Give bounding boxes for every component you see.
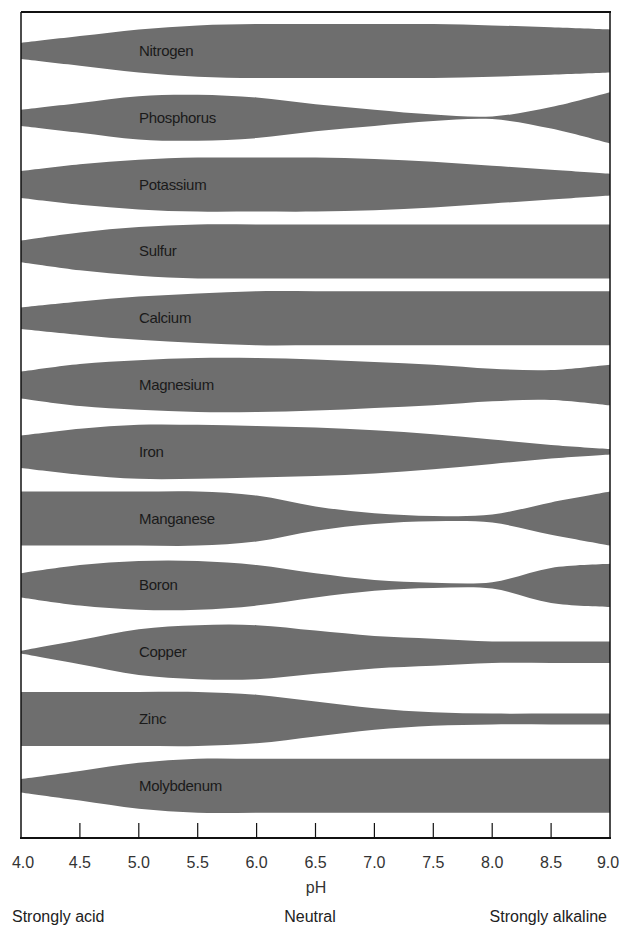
band-molybdenum: Molybdenum — [21, 758, 610, 813]
x-tick-label: 5.5 — [187, 854, 209, 871]
band-sulfur: Sulfur — [21, 224, 610, 278]
band-copper: Copper — [21, 625, 610, 680]
band-boron: Boron — [21, 561, 610, 611]
band-shape-potassium — [21, 157, 610, 211]
band-shape-manganese — [21, 491, 610, 546]
x-tick-label: 7.5 — [422, 854, 444, 871]
nutrient-availability-chart: NitrogenPhosphorusPotassiumSulfurCalcium… — [0, 0, 623, 951]
scale-label-alkaline: Strongly alkaline — [490, 908, 608, 925]
scale-label-neutral: Neutral — [284, 908, 336, 925]
band-iron: Iron — [21, 424, 610, 479]
band-shape-iron — [21, 424, 610, 479]
x-axis-tick-labels: 4.04.55.05.56.06.57.07.58.08.59.0 — [12, 854, 619, 871]
band-shape-magnesium — [21, 358, 610, 412]
x-tick-label: 4.5 — [69, 854, 91, 871]
band-label-magnesium: Magnesium — [139, 376, 214, 393]
band-shape-phosphorus — [21, 92, 610, 143]
x-tick-label: 4.0 — [12, 854, 34, 871]
band-shape-zinc — [21, 692, 610, 746]
band-label-boron: Boron — [139, 576, 178, 593]
x-tick-label: 6.5 — [304, 854, 326, 871]
band-manganese: Manganese — [21, 491, 610, 546]
x-tick-label: 9.0 — [597, 854, 619, 871]
band-magnesium: Magnesium — [21, 358, 610, 412]
band-label-phosphorus: Phosphorus — [139, 109, 216, 126]
x-axis-ticks — [80, 823, 551, 838]
band-shape-sulfur — [21, 224, 610, 278]
x-axis-title: pH — [306, 879, 326, 896]
band-shape-copper — [21, 625, 610, 680]
band-shape-boron — [21, 561, 610, 611]
nutrient-bands: NitrogenPhosphorusPotassiumSulfurCalcium… — [21, 24, 610, 813]
band-calcium: Calcium — [21, 291, 610, 345]
x-tick-label: 8.5 — [540, 854, 562, 871]
band-label-calcium: Calcium — [139, 309, 191, 326]
x-tick-label: 8.0 — [481, 854, 503, 871]
scale-label-acid: Strongly acid — [12, 908, 105, 925]
band-label-manganese: Manganese — [139, 510, 215, 527]
band-label-copper: Copper — [139, 643, 187, 660]
band-potassium: Potassium — [21, 157, 610, 211]
band-label-sulfur: Sulfur — [139, 242, 177, 259]
band-label-nitrogen: Nitrogen — [139, 42, 193, 59]
band-label-potassium: Potassium — [139, 176, 206, 193]
x-tick-label: 6.0 — [245, 854, 267, 871]
band-shape-calcium — [21, 291, 610, 345]
band-phosphorus: Phosphorus — [21, 92, 610, 143]
x-tick-label: 7.0 — [363, 854, 385, 871]
band-label-iron: Iron — [139, 443, 164, 460]
band-nitrogen: Nitrogen — [21, 24, 610, 78]
band-shape-molybdenum — [21, 758, 610, 813]
band-label-molybdenum: Molybdenum — [139, 777, 222, 794]
band-label-zinc: Zinc — [139, 710, 167, 727]
x-tick-label: 5.0 — [128, 854, 150, 871]
band-zinc: Zinc — [21, 692, 610, 746]
band-shape-nitrogen — [21, 24, 610, 78]
